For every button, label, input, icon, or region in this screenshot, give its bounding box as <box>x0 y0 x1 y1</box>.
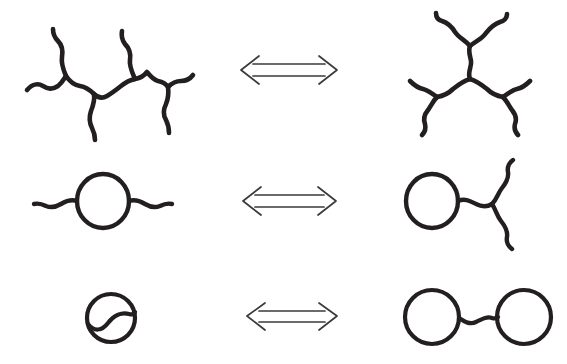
figure-root: Polymer topology transformation schemes … <box>0 0 567 364</box>
diagram-canvas: reversible transformation <box>0 0 567 364</box>
